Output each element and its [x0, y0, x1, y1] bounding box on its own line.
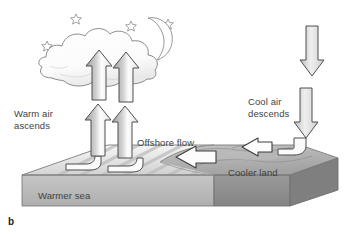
descending-arrow — [300, 26, 324, 76]
label-warm-air-ascends: Warm air ascends — [14, 108, 53, 131]
label-warmer-sea: Warmer sea — [38, 190, 90, 202]
land-block-front — [214, 175, 290, 206]
label-cooler-land: Cooler land — [228, 167, 278, 179]
star-icon — [71, 14, 82, 24]
label-cool-air-descends: Cool air descends — [248, 96, 289, 119]
figure-panel-b: Warm air ascends Cool air descends Offsh… — [0, 0, 354, 234]
label-offshore-flow: Offshore flow — [137, 137, 194, 149]
descending-arrow-lower — [294, 88, 318, 138]
crescent-moon-icon — [148, 18, 172, 60]
panel-label: b — [8, 216, 14, 227]
star-icon — [126, 21, 137, 31]
